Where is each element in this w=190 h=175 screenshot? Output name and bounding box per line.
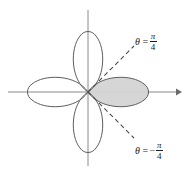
label-theta-positive: θ = π 4 <box>135 32 157 52</box>
equals-symbol-positive: = <box>141 37 150 47</box>
fraction-pi-over-4-positive: π 4 <box>150 32 157 52</box>
fraction-denominator-positive: 4 <box>150 42 157 52</box>
polar-rose-figure: θ = π 4 θ = − π 4 <box>0 0 190 175</box>
fraction-numerator-negative: π <box>156 141 163 151</box>
horizontal-axis-arrow <box>176 88 182 95</box>
fraction-numerator-positive: π <box>150 32 157 42</box>
fraction-denominator-negative: 4 <box>156 151 163 161</box>
label-theta-negative: θ = − π 4 <box>135 141 163 161</box>
equals-symbol-negative: = <box>141 146 150 156</box>
fraction-pi-over-4-negative: π 4 <box>156 141 163 161</box>
